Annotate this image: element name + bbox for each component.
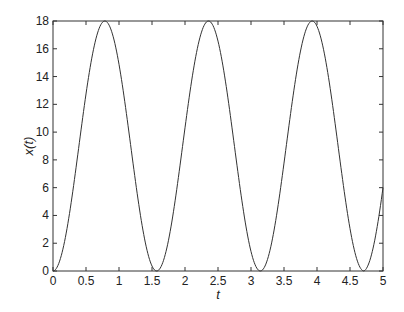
line-chart: 024681012141618 00.511.522.533.544.55 t … xyxy=(0,0,404,312)
y-tick-label: 10 xyxy=(36,125,50,139)
y-axis-ticks: 024681012141618 xyxy=(36,14,383,278)
x-tick-label: 5 xyxy=(380,274,387,288)
x-tick-label: 2 xyxy=(182,274,189,288)
y-tick-label: 18 xyxy=(36,14,50,28)
y-tick-label: 14 xyxy=(36,70,50,84)
x-tick-label: 0.5 xyxy=(78,274,95,288)
x-tick-label: 1 xyxy=(116,274,123,288)
x-tick-label: 4.5 xyxy=(342,274,359,288)
y-tick-label: 8 xyxy=(42,153,49,167)
y-tick-label: 2 xyxy=(42,236,49,250)
x-tick-label: 1.5 xyxy=(144,274,161,288)
x-tick-label: 3.5 xyxy=(276,274,293,288)
x-tick-label: 0 xyxy=(50,274,57,288)
x-axis-ticks: 00.511.522.533.544.55 xyxy=(50,21,387,288)
y-tick-label: 12 xyxy=(36,97,50,111)
x-tick-label: 3 xyxy=(248,274,255,288)
data-line xyxy=(53,21,383,271)
y-tick-label: 0 xyxy=(42,264,49,278)
x-tick-label: 4 xyxy=(314,274,321,288)
y-tick-label: 6 xyxy=(42,181,49,195)
plot-frame xyxy=(53,21,383,271)
y-tick-label: 4 xyxy=(42,208,49,222)
y-tick-label: 16 xyxy=(36,42,50,56)
x-tick-label: 2.5 xyxy=(210,274,227,288)
x-axis-label: t xyxy=(216,287,221,302)
y-axis-label: x(t) xyxy=(21,137,36,157)
